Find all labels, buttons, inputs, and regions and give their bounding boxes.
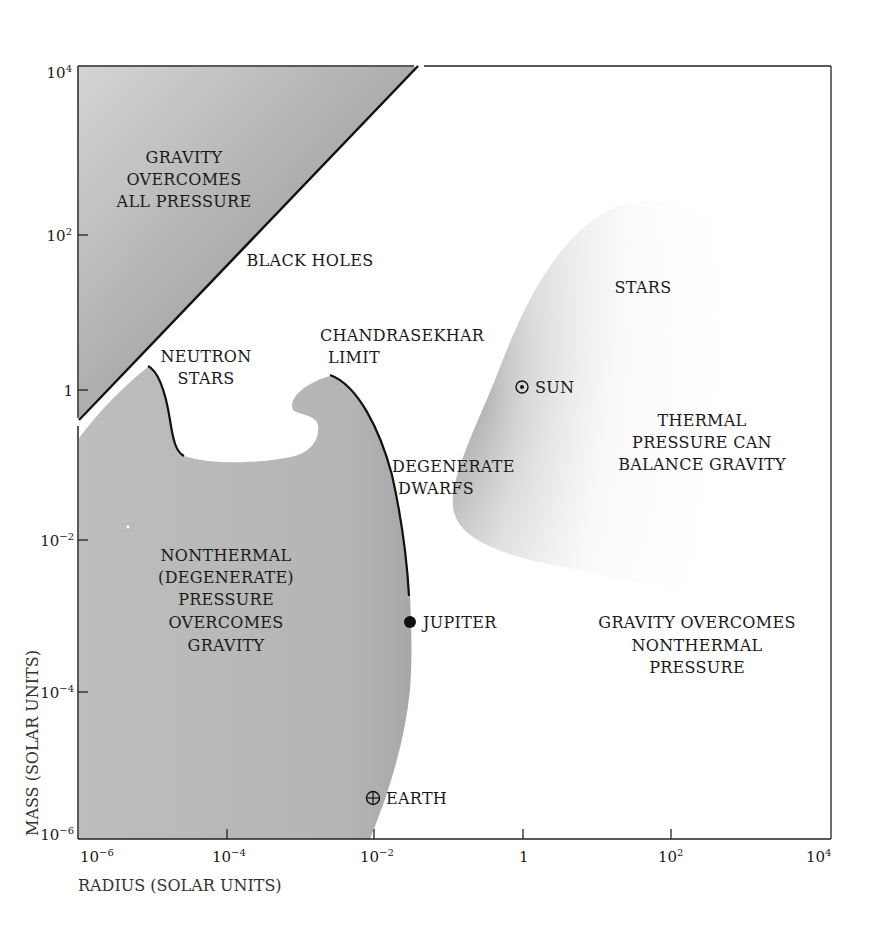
svg-text:STARS: STARS xyxy=(178,369,235,388)
y-tick-label: 104 xyxy=(47,63,72,82)
collapse-region-label: GRAVITY OVERCOMES NONTHERMAL PRESSURE xyxy=(598,613,795,677)
svg-text:GRAVITY OVERCOMES: GRAVITY OVERCOMES xyxy=(598,613,795,632)
svg-text:ALL PRESSURE: ALL PRESSURE xyxy=(116,192,252,211)
x-tick-label: 10−2 xyxy=(360,847,394,866)
y-tick-label: 10−4 xyxy=(40,683,74,702)
y-tick-label: 102 xyxy=(47,226,72,245)
svg-text:DEGENERATE: DEGENERATE xyxy=(392,457,515,476)
jupiter-icon xyxy=(404,616,416,628)
y-tick-label: 10−2 xyxy=(40,531,74,550)
x-axis-title: RADIUS (SOLAR UNITS) xyxy=(78,876,282,895)
svg-text:OVERCOMES: OVERCOMES xyxy=(168,613,283,632)
svg-text:PRESSURE: PRESSURE xyxy=(649,658,745,677)
svg-text:BALANCE GRAVITY: BALANCE GRAVITY xyxy=(618,455,786,474)
y-axis-title: MASS (SOLAR UNITS) xyxy=(23,650,42,836)
svg-text:JUPITER: JUPITER xyxy=(421,613,497,632)
jupiter-point: JUPITER xyxy=(404,613,497,632)
x-tick-label: 10−4 xyxy=(212,847,246,866)
svg-text:PRESSURE CAN: PRESSURE CAN xyxy=(632,433,772,452)
white-dot-marker xyxy=(126,525,131,530)
svg-text:THERMAL: THERMAL xyxy=(657,411,746,430)
neutron-stars-label: NEUTRON STARS xyxy=(160,347,251,388)
x-tick-label: 10−6 xyxy=(80,847,114,866)
mass-radius-diagram: 104 102 1 10−2 10−4 10−6 10−6 10−4 10−2 … xyxy=(0,0,882,945)
svg-text:PRESSURE: PRESSURE xyxy=(178,590,274,609)
svg-text:DWARFS: DWARFS xyxy=(398,479,474,498)
stars-region-fade xyxy=(453,201,740,600)
svg-text:NONTHERMAL: NONTHERMAL xyxy=(631,636,762,655)
black-holes-label: BLACK HOLES xyxy=(247,251,374,270)
y-tick-label: 10−6 xyxy=(40,825,74,844)
stars-label: STARS xyxy=(615,278,672,297)
svg-text:OVERCOMES: OVERCOMES xyxy=(126,170,241,189)
x-tick-label: 104 xyxy=(806,847,831,866)
x-tick-label: 102 xyxy=(658,847,683,866)
svg-text:GRAVITY: GRAVITY xyxy=(188,636,265,655)
y-tick-label: 1 xyxy=(63,382,73,400)
svg-text:NONTHERMAL: NONTHERMAL xyxy=(160,546,291,565)
svg-text:GRAVITY: GRAVITY xyxy=(146,148,223,167)
svg-text:LIMIT: LIMIT xyxy=(328,348,380,367)
svg-text:EARTH: EARTH xyxy=(386,789,447,808)
chandrasekhar-limit-label: CHANDRASEKHAR LIMIT xyxy=(320,326,485,367)
svg-text:(DEGENERATE): (DEGENERATE) xyxy=(158,568,294,587)
svg-text:CHANDRASEKHAR: CHANDRASEKHAR xyxy=(320,326,485,345)
svg-text:SUN: SUN xyxy=(535,378,574,397)
x-tick-label: 1 xyxy=(519,848,529,866)
svg-text:NEUTRON: NEUTRON xyxy=(160,347,251,366)
